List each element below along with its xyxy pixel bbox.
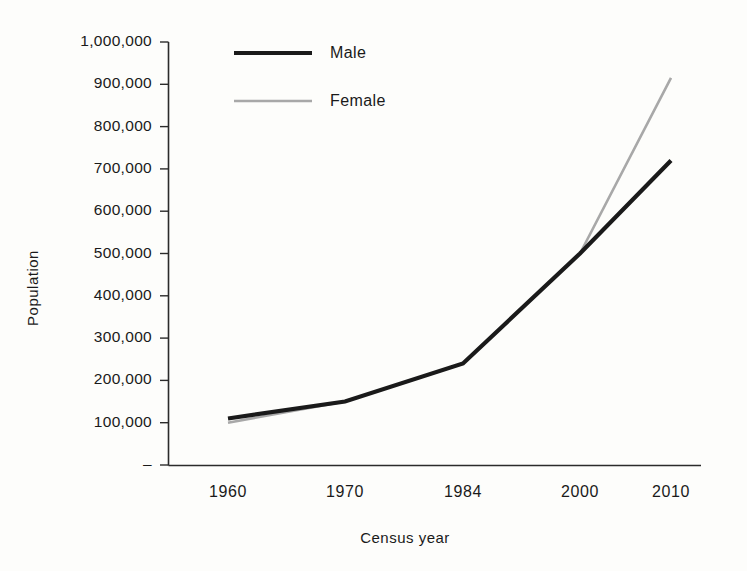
y-axis-tick-labels: 1,000,000 900,000 800,000 700,000 600,00… [80,32,152,472]
y-tick-label: 200,000 [94,370,152,387]
x-tick-label: 2000 [561,483,599,500]
legend-label-male: Male [330,44,366,61]
chart-canvas: 1,000,000 900,000 800,000 700,000 600,00… [0,0,747,571]
legend-label-female: Female [330,92,386,109]
y-tick-label: 600,000 [94,201,152,218]
x-tick-label: 1970 [326,483,364,500]
y-axis-title: Population [24,250,41,326]
y-tick-label: 400,000 [94,286,152,303]
y-tick-label: 100,000 [94,413,152,430]
y-tick-label: 300,000 [94,328,152,345]
x-tick-label: 1960 [209,483,247,500]
y-tick-label: 1,000,000 [80,32,152,49]
chart-legend: Male Female [234,44,386,109]
y-tick-label: 500,000 [94,244,152,261]
series-line-male [228,160,671,418]
y-tick-label-zero: – [143,455,152,472]
y-tick-label: 800,000 [94,117,152,134]
series-line-female [228,78,671,423]
y-tick-label: 700,000 [94,159,152,176]
x-tick-label: 1984 [444,483,482,500]
x-axis-tick-labels: 1960 1970 1984 2000 2010 [209,483,690,500]
y-tick-label: 900,000 [94,74,152,91]
line-chart: 1,000,000 900,000 800,000 700,000 600,00… [0,0,747,571]
x-tick-label: 2010 [652,483,690,500]
y-axis-ticks [160,42,169,465]
x-axis-title: Census year [360,529,450,546]
